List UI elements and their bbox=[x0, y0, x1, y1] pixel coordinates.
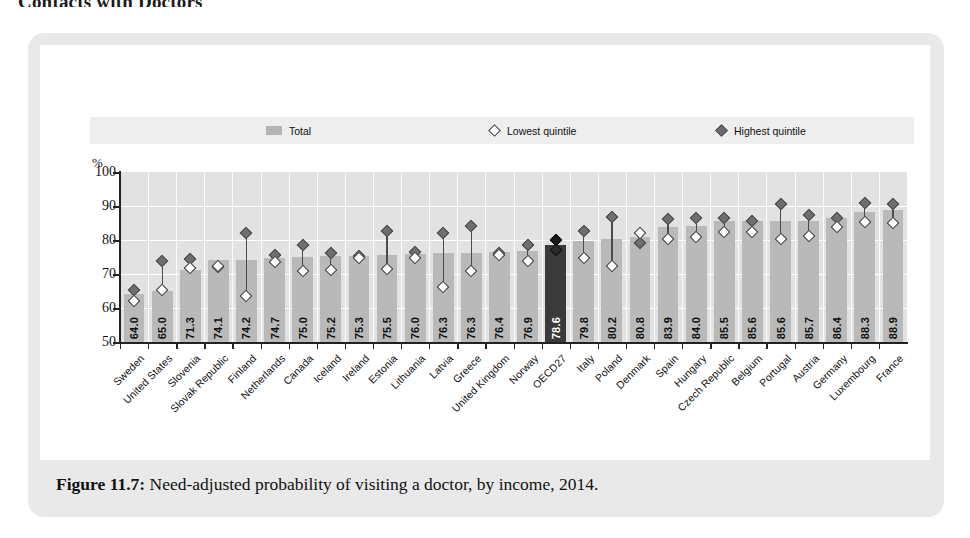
bar-value-label: 76.0 bbox=[409, 317, 421, 339]
vertical-gridline bbox=[429, 172, 430, 342]
bar-value-label: 76.9 bbox=[522, 317, 534, 339]
bar-value-label: 75.5 bbox=[381, 317, 393, 339]
bar-value-label: 76.3 bbox=[437, 317, 449, 339]
x-axis-tick-mark bbox=[823, 343, 824, 349]
bar-value-label: 85.7 bbox=[803, 317, 815, 339]
vertical-gridline bbox=[401, 172, 402, 342]
vertical-gridline bbox=[261, 172, 262, 342]
x-axis-tick-mark bbox=[654, 343, 655, 349]
x-axis-tick-mark bbox=[851, 343, 852, 349]
vertical-gridline bbox=[738, 172, 739, 342]
x-axis-tick-mark bbox=[317, 343, 318, 349]
x-axis-tick-mark bbox=[738, 343, 739, 349]
bar-value-label: 85.5 bbox=[718, 317, 730, 339]
figure-caption: Figure 11.7: Need-adjusted probability o… bbox=[56, 474, 926, 496]
vertical-gridline bbox=[570, 172, 571, 342]
bar-value-label: 64.0 bbox=[128, 317, 140, 339]
x-axis-tick-mark bbox=[176, 343, 177, 349]
bar-value-label: 79.8 bbox=[578, 317, 590, 339]
vertical-gridline bbox=[345, 172, 346, 342]
vertical-gridline bbox=[626, 172, 627, 342]
bar-value-label: 76.4 bbox=[493, 317, 505, 339]
x-axis-tick-mark bbox=[542, 343, 543, 349]
x-axis-tick-mark bbox=[148, 343, 149, 349]
category-label: Canada bbox=[280, 352, 315, 387]
plot-wrap: % 1009080706050 64.065.071.374.174.274.7… bbox=[40, 45, 930, 460]
vertical-gridline bbox=[373, 172, 374, 342]
x-axis-tick-mark bbox=[345, 343, 346, 349]
y-axis-tick-mark bbox=[113, 308, 120, 310]
x-axis-tick-mark bbox=[485, 343, 486, 349]
x-axis-tick-mark bbox=[795, 343, 796, 349]
quintile-connector bbox=[246, 233, 247, 297]
x-axis-tick-mark bbox=[766, 343, 767, 349]
x-axis-tick-mark bbox=[570, 343, 571, 349]
figure-card: Total Lowest quintile Highest quintile %… bbox=[28, 33, 944, 517]
x-axis-tick-mark bbox=[879, 343, 880, 349]
x-axis-tick-mark bbox=[514, 343, 515, 349]
bar-value-label: 86.4 bbox=[831, 317, 843, 339]
bar-value-label: 75.0 bbox=[297, 317, 309, 339]
vertical-gridline bbox=[176, 172, 177, 342]
x-axis-tick-mark bbox=[429, 343, 430, 349]
x-axis-tick-mark bbox=[598, 343, 599, 349]
bar-value-label: 65.0 bbox=[156, 317, 168, 339]
x-axis-tick-mark bbox=[710, 343, 711, 349]
y-axis-line bbox=[119, 171, 121, 343]
vertical-gridline bbox=[851, 172, 852, 342]
x-axis-tick-mark bbox=[682, 343, 683, 349]
vertical-gridline bbox=[514, 172, 515, 342]
bar-value-label: 88.9 bbox=[887, 317, 899, 339]
x-axis-tick-mark bbox=[120, 343, 121, 349]
y-axis-tick-mark bbox=[113, 274, 120, 276]
bar-value-label: 74.7 bbox=[269, 317, 281, 339]
vertical-gridline bbox=[766, 172, 767, 342]
bar-value-label: 75.2 bbox=[325, 317, 337, 339]
vertical-gridline bbox=[317, 172, 318, 342]
vertical-gridline bbox=[232, 172, 233, 342]
vertical-gridline bbox=[682, 172, 683, 342]
vertical-gridline bbox=[289, 172, 290, 342]
chart-panel: Total Lowest quintile Highest quintile %… bbox=[40, 45, 930, 460]
vertical-gridline bbox=[879, 172, 880, 342]
bar-value-label: 78.6 bbox=[550, 317, 562, 339]
bar-value-label: 71.3 bbox=[184, 317, 196, 339]
bar-value-label: 85.6 bbox=[746, 317, 758, 339]
bar-value-label: 85.6 bbox=[775, 317, 787, 339]
y-axis-tick-mark bbox=[113, 206, 120, 208]
figure-caption-text: Need-adjusted probability of visiting a … bbox=[145, 474, 598, 494]
vertical-gridline bbox=[204, 172, 205, 342]
vertical-gridline bbox=[148, 172, 149, 342]
category-label: France bbox=[873, 352, 905, 384]
x-axis-tick-mark bbox=[401, 343, 402, 349]
category-label: Italy bbox=[574, 352, 596, 374]
x-axis-tick-mark bbox=[204, 343, 205, 349]
vertical-gridline bbox=[710, 172, 711, 342]
figure-caption-label: Figure 11.7: bbox=[56, 474, 145, 494]
vertical-gridline bbox=[654, 172, 655, 342]
x-axis-tick-mark bbox=[289, 343, 290, 349]
vertical-gridline bbox=[457, 172, 458, 342]
vertical-gridline bbox=[542, 172, 543, 342]
bar-value-label: 75.3 bbox=[353, 317, 365, 339]
bar-value-label: 76.3 bbox=[465, 317, 477, 339]
x-axis-tick-mark bbox=[261, 343, 262, 349]
x-axis-tick-mark bbox=[373, 343, 374, 349]
section-heading: Contacts with Doctors bbox=[18, 0, 203, 7]
bar-value-label: 88.3 bbox=[859, 317, 871, 339]
y-axis-labels: 1009080706050 bbox=[80, 172, 116, 342]
vertical-gridline bbox=[485, 172, 486, 342]
bar-value-label: 74.2 bbox=[240, 317, 252, 339]
y-axis-tick-mark bbox=[113, 342, 120, 344]
vertical-gridline bbox=[598, 172, 599, 342]
bar-value-label: 80.8 bbox=[634, 317, 646, 339]
bar-value-label: 80.2 bbox=[606, 317, 618, 339]
bar-value-label: 84.0 bbox=[690, 317, 702, 339]
bar-value-label: 83.9 bbox=[662, 317, 674, 339]
vertical-gridline bbox=[823, 172, 824, 342]
x-axis-tick-mark bbox=[457, 343, 458, 349]
y-axis-tick-mark bbox=[113, 172, 120, 174]
bar-value-label: 74.1 bbox=[212, 317, 224, 339]
y-axis-tick-mark bbox=[113, 240, 120, 242]
x-axis-tick-mark bbox=[626, 343, 627, 349]
